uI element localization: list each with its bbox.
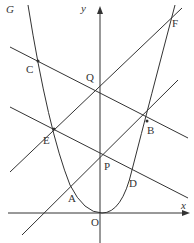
label-c: C xyxy=(26,63,33,75)
label-d: D xyxy=(129,177,137,189)
label-p: P xyxy=(104,160,110,172)
parabola-diagram: G y x O C Q F B E P D A xyxy=(0,0,194,243)
y-axis-arrow-icon xyxy=(97,6,103,14)
point-c xyxy=(37,60,40,63)
x-axis-label: x xyxy=(180,199,186,211)
origin-label: O xyxy=(91,216,99,228)
label-e: E xyxy=(43,134,50,146)
label-b: B xyxy=(147,124,154,136)
y-axis-label: y xyxy=(80,2,86,14)
label-a: A xyxy=(68,192,76,204)
point-e xyxy=(53,128,56,131)
line-epd xyxy=(10,107,188,198)
point-b xyxy=(146,120,149,123)
curve-label-g: G xyxy=(6,3,14,15)
label-f: F xyxy=(172,17,178,29)
line-eqf xyxy=(10,8,182,172)
label-q: Q xyxy=(86,71,94,83)
